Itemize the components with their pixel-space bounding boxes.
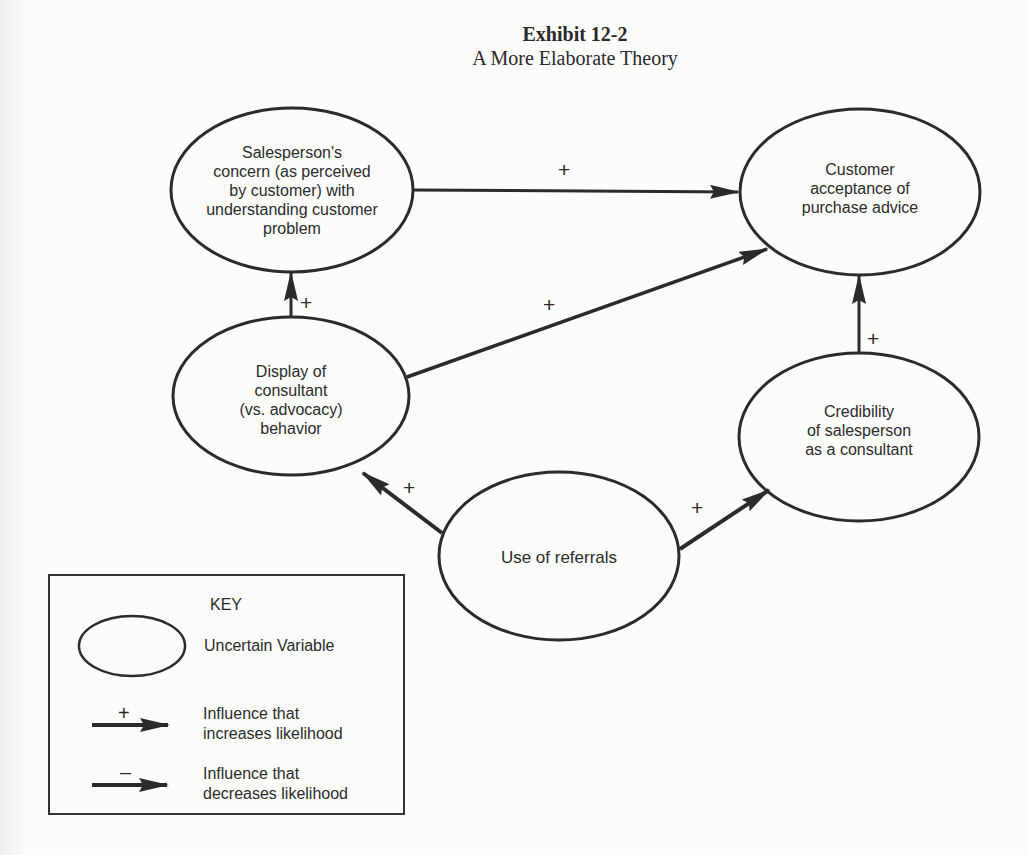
label-line: behavior (239, 419, 342, 438)
legend-label-decreases: Influence that decreases likelihood (203, 764, 348, 804)
legend-title: KEY (210, 596, 242, 614)
label-line: (vs. advocacy) (239, 400, 342, 419)
label-line: consultant (239, 381, 342, 400)
legend-line: Influence that (203, 704, 343, 724)
sign-concern-to-acceptance: + (558, 160, 570, 180)
label-line: Use of referrals (501, 548, 617, 567)
sign-display-to-acceptance: + (543, 295, 555, 315)
label-line: by customer) with (206, 181, 378, 200)
label-line: Salesperson's (206, 143, 378, 162)
legend-line: Influence that (203, 764, 348, 784)
label-line: Credibility (805, 402, 913, 421)
label-referrals: Use of referrals (439, 546, 679, 568)
legend-line: increases likelihood (203, 724, 343, 744)
label-line: Display of (239, 362, 342, 381)
sign-referrals-to-display: + (403, 478, 415, 498)
label-display-consultant: Display of consultant (vs. advocacy) beh… (173, 345, 409, 455)
label-line: of salesperson (805, 421, 913, 440)
label-line: understanding customer (206, 200, 378, 219)
legend-label-increases: Influence that increases likelihood (203, 704, 343, 744)
legend-sign-plus: + (118, 703, 130, 723)
exhibit-page: Exhibit 12-2 A More Elaborate Theory (0, 0, 1029, 855)
sign-credibility-to-acceptance: + (867, 329, 879, 349)
label-credibility: Credibility of salesperson as a consulta… (739, 380, 979, 480)
edge-concern-to-acceptance (413, 190, 738, 192)
label-salesperson-concern: Salesperson's concern (as perceived by c… (171, 120, 413, 260)
sign-referrals-to-credibility: + (691, 498, 703, 518)
label-customer-acceptance: Customer acceptance of purchase advice (740, 138, 980, 238)
label-line: acceptance of (802, 179, 919, 198)
legend-sign-minus: – (120, 762, 131, 782)
label-line: concern (as perceived (206, 162, 378, 181)
label-line: purchase advice (802, 198, 919, 217)
edge-display-to-acceptance (407, 249, 767, 377)
label-line: as a consultant (805, 440, 913, 459)
sign-display-to-concern: + (300, 293, 312, 313)
legend-line: decreases likelihood (203, 784, 348, 804)
label-line: Customer (802, 160, 919, 179)
label-line: problem (206, 219, 378, 238)
legend-label-uncertain-variable: Uncertain Variable (204, 636, 334, 656)
